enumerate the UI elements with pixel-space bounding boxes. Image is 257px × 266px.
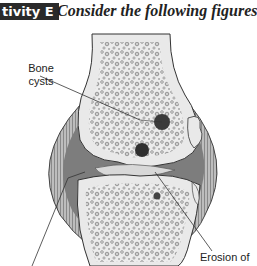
label-erosion: Erosion of — [200, 251, 257, 264]
upper-bone — [78, 34, 202, 167]
label-cysts-line2: cysts — [16, 75, 66, 88]
lower-bone — [77, 175, 200, 266]
activity-badge: tivity E — [0, 3, 59, 20]
label-bone-line1: Bone — [16, 62, 66, 75]
label-bone-cysts: Bone cysts — [16, 62, 66, 88]
activity-instruction: Consider the following figures. — [57, 1, 257, 21]
activity-header: tivity E Consider the following figures. — [0, 0, 257, 24]
leader-left — [32, 178, 68, 266]
bone-cyst — [135, 143, 149, 157]
joint-diagram: Bone cysts Erosion of — [0, 28, 257, 266]
